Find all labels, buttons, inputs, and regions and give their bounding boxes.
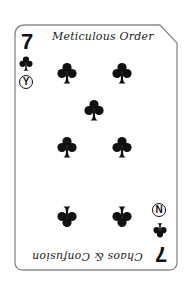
rank-top-left: 7 <box>21 31 33 53</box>
badge-top-left: Y <box>19 75 33 89</box>
top-label: Meticulous Order <box>52 30 154 43</box>
rank-bottom-right: 7 <box>155 243 167 265</box>
badge-bottom-right: N <box>152 203 166 217</box>
club-icon <box>57 206 77 228</box>
club-icon <box>84 99 104 121</box>
club-icon <box>153 223 167 238</box>
bottom-label: Chaos & Confusion <box>32 250 143 263</box>
club-icon <box>57 62 77 84</box>
club-icon <box>57 136 77 158</box>
club-icon <box>112 136 132 158</box>
club-icon <box>112 206 132 228</box>
club-icon <box>19 56 33 71</box>
club-icon <box>112 62 132 84</box>
